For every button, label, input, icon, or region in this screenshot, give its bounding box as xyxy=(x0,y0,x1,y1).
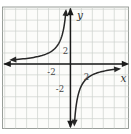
x-axis-name-label: x xyxy=(121,72,127,84)
plot-frame xyxy=(3,7,129,129)
x-axis-tick-label-neg2: -2 xyxy=(47,67,55,77)
x-axis-tick-label-pos2: 2 xyxy=(84,72,89,82)
function-graph-figure: yx-222-2 xyxy=(0,0,131,134)
hyperbola-graph-canvas: yx-222-2 xyxy=(0,0,131,134)
y-axis-tick-label-neg2: -2 xyxy=(56,84,64,94)
y-axis-name-label: y xyxy=(76,9,84,21)
y-axis-tick-label-pos2: 2 xyxy=(63,46,68,56)
